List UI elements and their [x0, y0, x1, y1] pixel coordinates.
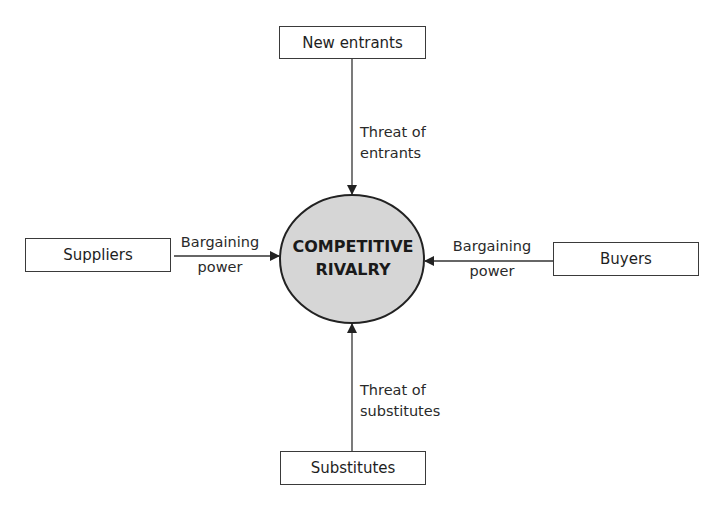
- center-line-1: COMPETITIVE: [282, 235, 424, 258]
- new-entrants-box: New entrants: [279, 26, 426, 59]
- edge-right-line-1: Bargaining: [452, 236, 532, 257]
- threat-of-substitutes-label: Threat of substitutes: [360, 380, 440, 422]
- buyers-box: Buyers: [553, 242, 699, 276]
- edge-bottom-line-2: substitutes: [360, 401, 440, 422]
- edge-right-line-2: power: [452, 261, 532, 282]
- edge-bottom-line-1: Threat of: [360, 380, 440, 401]
- new-entrants-label: New entrants: [302, 34, 403, 52]
- edge-top-line-2: entrants: [360, 143, 426, 164]
- substitutes-label: Substitutes: [311, 459, 396, 477]
- center-line-2: RIVALRY: [282, 258, 424, 281]
- supplier-bargaining-power-label: Bargaining power: [180, 232, 260, 278]
- buyers-label: Buyers: [600, 250, 652, 268]
- competitive-rivalry-text: COMPETITIVE RIVALRY: [282, 235, 424, 281]
- edge-top-line-1: Threat of: [360, 122, 426, 143]
- suppliers-box: Suppliers: [25, 238, 171, 272]
- buyer-bargaining-power-label: Bargaining power: [452, 236, 532, 282]
- substitutes-box: Substitutes: [280, 451, 426, 485]
- edge-left-line-2: power: [180, 257, 260, 278]
- threat-of-entrants-label: Threat of entrants: [360, 122, 426, 164]
- edge-left-line-1: Bargaining: [180, 232, 260, 253]
- suppliers-label: Suppliers: [63, 246, 133, 264]
